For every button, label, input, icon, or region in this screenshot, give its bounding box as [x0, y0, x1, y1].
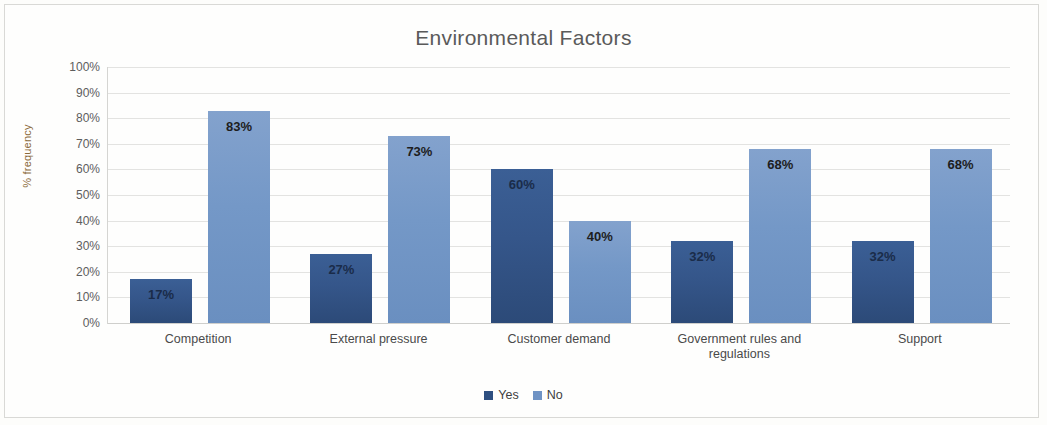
bar-yes[interactable]: 60%	[491, 169, 553, 323]
bar-value-label: 27%	[310, 262, 372, 277]
bar-value-label: 68%	[749, 157, 811, 172]
x-axis-category-label: External pressure	[288, 332, 468, 347]
category-label-line: Government rules and	[649, 332, 829, 347]
y-axis-tick-label: 80%	[34, 111, 100, 125]
bar-no[interactable]: 83%	[208, 111, 270, 323]
bar-value-label: 17%	[130, 287, 192, 302]
bar-no[interactable]: 73%	[388, 136, 450, 323]
legend-swatch-icon	[533, 391, 542, 400]
bar-yes[interactable]: 17%	[130, 279, 192, 323]
category-label-line: Competition	[108, 332, 288, 347]
gridline	[108, 323, 1010, 324]
chart-title: Environmental Factors	[0, 26, 1047, 50]
y-axis-tick-label: 30%	[34, 239, 100, 253]
bar-value-label: 32%	[671, 249, 733, 264]
bar-value-label: 60%	[491, 177, 553, 192]
bar-no[interactable]: 68%	[749, 149, 811, 323]
bar-group: 17%83%	[108, 67, 288, 323]
legend-item-no[interactable]: No	[533, 388, 563, 402]
y-axis-tick-label: 0%	[34, 316, 100, 330]
category-label-line: Support	[830, 332, 1010, 347]
bar-value-label: 68%	[930, 157, 992, 172]
bar-yes[interactable]: 32%	[852, 241, 914, 323]
bar-value-label: 40%	[569, 229, 631, 244]
y-axis-tick-labels: 100%90%80%70%60%50%40%30%20%10%0%	[30, 67, 100, 323]
chart-figure: Environmental Factors % frequency 100%90…	[0, 0, 1047, 425]
y-axis-tick-label: 50%	[34, 188, 100, 202]
bar-no[interactable]: 68%	[930, 149, 992, 323]
bar-group: 60%40%	[469, 67, 649, 323]
bar-value-label: 83%	[208, 119, 270, 134]
legend-swatch-icon	[484, 391, 493, 400]
plot-area: 17%83%27%73%60%40%32%68%32%68%	[108, 67, 1010, 323]
category-label-line: Customer demand	[469, 332, 649, 347]
bar-yes[interactable]: 32%	[671, 241, 733, 323]
y-axis-tick-label: 20%	[34, 265, 100, 279]
bar-yes[interactable]: 27%	[310, 254, 372, 323]
bar-value-label: 32%	[852, 249, 914, 264]
y-axis-tick-label: 90%	[34, 86, 100, 100]
x-axis-category-label: Government rules andregulations	[649, 332, 829, 362]
x-axis-category-label: Competition	[108, 332, 288, 347]
bar-group: 27%73%	[288, 67, 468, 323]
category-label-line: External pressure	[288, 332, 468, 347]
bar-value-label: 73%	[388, 144, 450, 159]
bar-no[interactable]: 40%	[569, 221, 631, 323]
y-axis-tick-label: 40%	[34, 214, 100, 228]
bar-group: 32%68%	[649, 67, 829, 323]
x-axis-category-label: Support	[830, 332, 1010, 347]
y-axis-tick-label: 100%	[34, 60, 100, 74]
y-axis-tick-label: 10%	[34, 290, 100, 304]
category-label-line: regulations	[649, 347, 829, 362]
bar-group: 32%68%	[830, 67, 1010, 323]
y-axis-tick-label: 60%	[34, 162, 100, 176]
x-axis-category-label: Customer demand	[469, 332, 649, 347]
legend-label: Yes	[498, 388, 518, 402]
y-axis-tick-label: 70%	[34, 137, 100, 151]
legend-label: No	[547, 388, 563, 402]
legend-item-yes[interactable]: Yes	[484, 388, 518, 402]
chart-legend: YesNo	[0, 388, 1047, 402]
